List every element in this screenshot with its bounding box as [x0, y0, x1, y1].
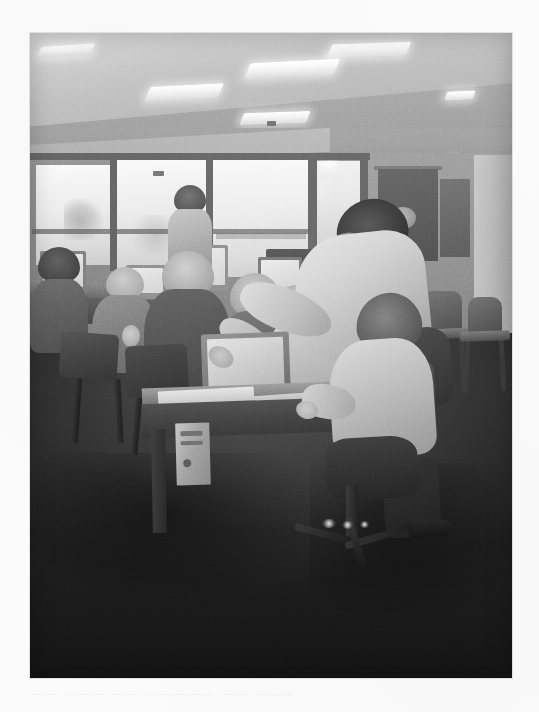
stacking-chair-back: [468, 297, 502, 335]
stacking-chair-seat: [460, 330, 510, 342]
fluorescent-light-fixture: [327, 42, 412, 59]
wall-mounted-box: [267, 121, 276, 126]
chair-back: [58, 331, 119, 381]
drive-bay: [180, 431, 202, 437]
floor-vignette: [30, 513, 512, 678]
photograph-frame: [30, 33, 512, 678]
wall-mounted-box: [153, 171, 164, 176]
faint-scan-ghost-text: —— ——— —— ————— —— ———: [32, 686, 462, 701]
photograph: [30, 33, 512, 678]
student-lap: [324, 435, 419, 502]
drive-bay: [181, 441, 203, 446]
scanned-page: —— ——— —— ————— —— ———: [0, 0, 539, 712]
power-button: [183, 459, 191, 467]
fluorescent-light-fixture: [444, 91, 475, 101]
computer-tower: [175, 423, 211, 486]
person-hand: [122, 325, 140, 347]
person-head: [38, 247, 80, 283]
window-mullion: [110, 159, 117, 271]
window-mullion: [30, 153, 370, 160]
doorway-secondary: [440, 179, 470, 257]
